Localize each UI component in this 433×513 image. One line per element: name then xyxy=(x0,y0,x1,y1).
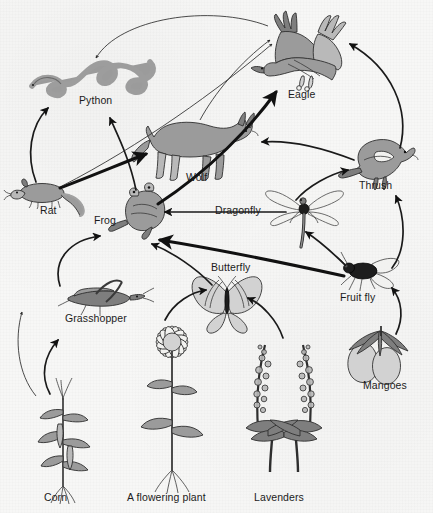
label-mangoes: Mangoes xyxy=(363,380,407,391)
label-fruit-fly: Fruit fly xyxy=(340,292,375,303)
label-thrush: Thrush xyxy=(359,180,392,191)
label-eagle: Eagle xyxy=(288,89,315,100)
label-butterfly: Butterfly xyxy=(211,262,250,273)
label-flowering-plant: A flowering plant xyxy=(127,492,206,503)
label-dragonfly: Dragonfly xyxy=(215,205,261,216)
label-grasshopper: Grasshopper xyxy=(65,313,127,324)
food-web-diagram: Python Eagle Wolf Rat Frog Dragonfly Thr… xyxy=(0,0,433,513)
label-frog: Frog xyxy=(94,215,116,226)
label-wolf: Wolf xyxy=(186,172,207,183)
label-rat: Rat xyxy=(40,205,57,216)
label-lavenders: Lavenders xyxy=(254,492,304,503)
label-python: Python xyxy=(79,95,112,106)
label-corn: Corn xyxy=(44,492,67,503)
label-layer: Python Eagle Wolf Rat Frog Dragonfly Thr… xyxy=(0,0,433,513)
